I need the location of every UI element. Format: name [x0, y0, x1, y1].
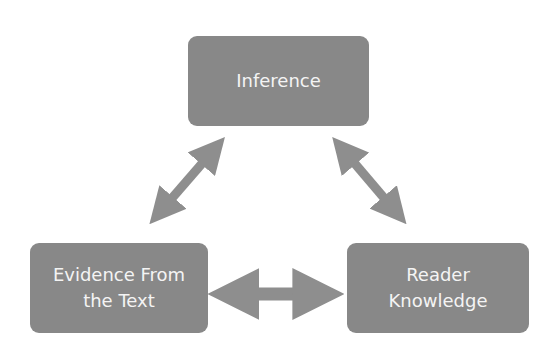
node-evidence-from-text: Evidence From the Text: [30, 243, 208, 333]
node-label-line2: the Text: [83, 288, 155, 314]
node-label-line1: Evidence From: [53, 262, 185, 288]
node-label-line1: Reader: [406, 262, 470, 288]
arrow-inference-knowledge: [345, 152, 396, 212]
node-inference: Inference: [188, 36, 369, 126]
node-reader-knowledge: Reader Knowledge: [347, 243, 529, 333]
node-label-line2: Knowledge: [389, 288, 488, 314]
node-label: Inference: [236, 68, 321, 94]
arrow-inference-evidence: [160, 152, 212, 212]
